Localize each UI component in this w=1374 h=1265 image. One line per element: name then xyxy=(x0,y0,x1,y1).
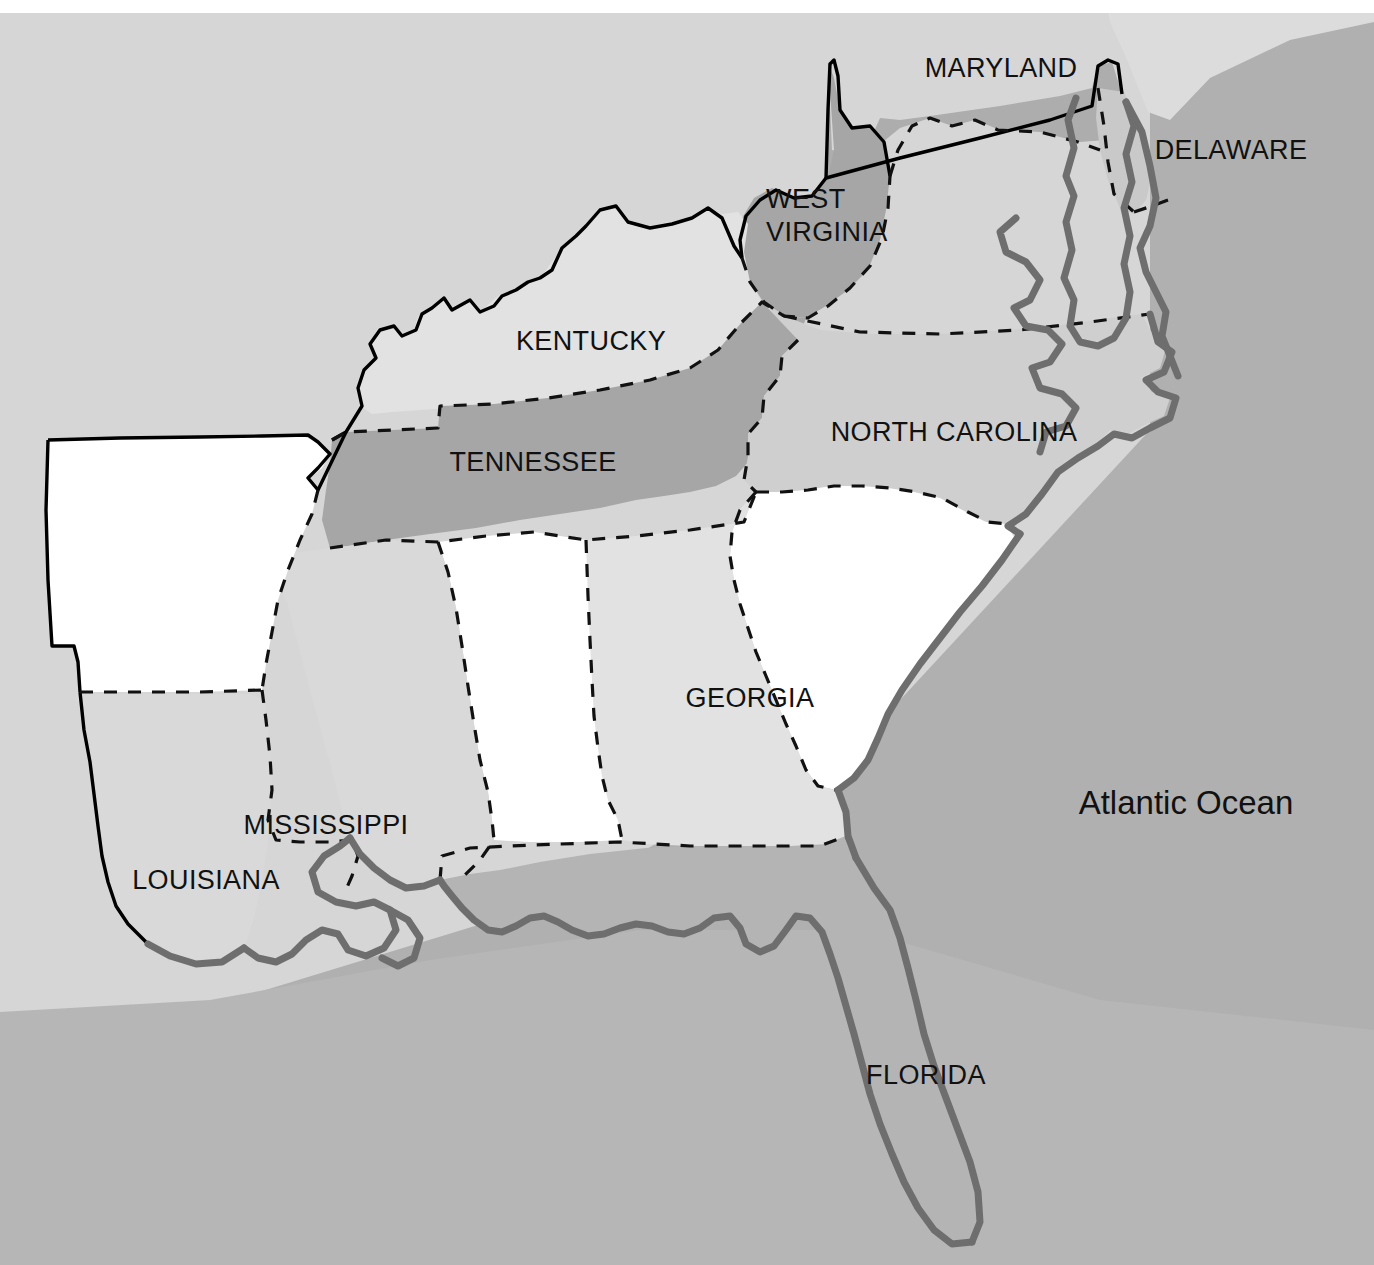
label-west-virginia-line1: WEST xyxy=(766,184,846,214)
label-delaware: DELAWARE xyxy=(1155,135,1308,165)
southeast-us-map: MARYLAND DELAWARE WEST VIRGINIA KENTUCKY… xyxy=(0,0,1374,1265)
label-mississippi: MISSISSIPPI xyxy=(244,810,409,840)
title-crop-mask xyxy=(0,0,1374,13)
label-atlantic-ocean: Atlantic Ocean xyxy=(1079,784,1294,821)
label-kentucky: KENTUCKY xyxy=(516,326,666,356)
label-north-carolina: NORTH CAROLINA xyxy=(831,417,1078,447)
label-georgia: GEORGIA xyxy=(686,683,815,713)
label-florida: FLORIDA xyxy=(866,1060,986,1090)
map-container: MARYLAND DELAWARE WEST VIRGINIA KENTUCKY… xyxy=(0,0,1374,1265)
label-louisiana: LOUISIANA xyxy=(132,865,280,895)
label-maryland: MARYLAND xyxy=(925,53,1078,83)
label-west-virginia-line2: VIRGINIA xyxy=(766,217,888,247)
label-tennessee: TENNESSEE xyxy=(449,447,616,477)
